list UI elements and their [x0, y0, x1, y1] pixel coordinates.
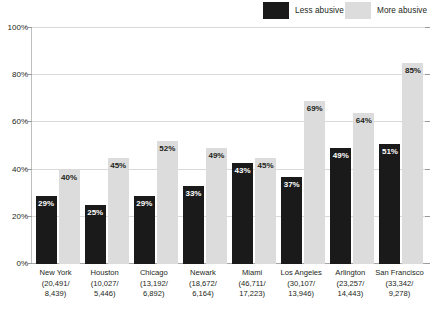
bar-less-abusive[interactable]: 49% [330, 148, 351, 264]
y-tick-right-100 [425, 27, 430, 28]
y-axis-label-60: 60% [0, 118, 28, 126]
bar-more-abusive[interactable]: 45% [108, 158, 129, 264]
bar-value-label: 51% [382, 148, 398, 156]
bar-group: 25%45% [85, 28, 129, 264]
bar-group: 29%52% [134, 28, 178, 264]
x-axis-city-name: San Francisco [368, 268, 430, 279]
bar-value-label: 45% [110, 162, 126, 170]
bar-value-label: 85% [405, 67, 421, 75]
bar-value-label: 40% [61, 174, 77, 182]
y-tick-right-60 [425, 121, 430, 122]
bar-more-abusive[interactable]: 69% [304, 101, 325, 264]
bar-value-label: 29% [38, 200, 54, 208]
bar-group: 33%49% [183, 28, 227, 264]
y-tick-left-40 [28, 169, 32, 170]
bar-more-abusive[interactable]: 85% [402, 63, 423, 264]
bar-less-abusive[interactable]: 29% [36, 196, 57, 264]
bar-group: 37%69% [281, 28, 325, 264]
y-tick-right-80 [425, 74, 430, 75]
grouped-bar-chart: 29%40%25%45%29%52%33%49%43%45%37%69%49%6… [0, 0, 437, 319]
x-axis-count-line2: 9,278) [368, 289, 430, 300]
plot-area: 29%40%25%45%29%52%33%49%43%45%37%69%49%6… [31, 28, 424, 264]
y-tick-right-40 [425, 169, 430, 170]
bar-group: 29%40% [36, 28, 80, 264]
bar-value-label: 25% [87, 209, 103, 217]
y-tick-left-0 [28, 263, 32, 264]
bar-less-abusive[interactable]: 37% [281, 177, 302, 264]
y-axis-label-20: 20% [0, 213, 28, 221]
bar-less-abusive[interactable]: 25% [85, 205, 106, 264]
y-tick-right-20 [425, 216, 430, 217]
bar-less-abusive[interactable]: 51% [379, 144, 400, 264]
bar-value-label: 33% [185, 190, 201, 198]
bar-group: 51%85% [379, 28, 423, 264]
x-axis-count-line1: (33,342/ [368, 279, 430, 290]
x-axis-label: San Francisco(33,342/9,278) [368, 268, 430, 300]
bar-value-label: 43% [235, 167, 251, 175]
bar-more-abusive[interactable]: 52% [157, 141, 178, 264]
bar-group: 43%45% [232, 28, 276, 264]
bar-value-label: 69% [307, 105, 323, 113]
bar-more-abusive[interactable]: 40% [59, 170, 80, 264]
bar-group: 49%64% [330, 28, 374, 264]
bar-more-abusive[interactable]: 45% [255, 158, 276, 264]
bar-value-label: 52% [159, 145, 175, 153]
y-tick-right-0 [425, 263, 430, 264]
y-axis-label-100: 100% [0, 24, 28, 32]
bar-more-abusive[interactable]: 49% [206, 148, 227, 264]
bar-value-label: 45% [258, 162, 274, 170]
bar-less-abusive[interactable]: 29% [134, 196, 155, 264]
y-axis-label-0: 0% [0, 260, 28, 268]
bar-less-abusive[interactable]: 33% [183, 186, 204, 264]
bar-value-label: 49% [333, 152, 349, 160]
y-tick-left-60 [28, 121, 32, 122]
y-axis-label-80: 80% [0, 71, 28, 79]
bar-value-label: 29% [136, 200, 152, 208]
y-tick-left-100 [28, 27, 32, 28]
x-axis-labels: New York(20,491/8,439)Houston(10,027/5,4… [31, 268, 424, 318]
bar-less-abusive[interactable]: 43% [232, 163, 253, 264]
bar-value-label: 37% [284, 181, 300, 189]
y-axis-label-40: 40% [0, 166, 28, 174]
bar-value-label: 49% [208, 152, 224, 160]
bar-more-abusive[interactable]: 64% [353, 113, 374, 264]
y-tick-left-20 [28, 216, 32, 217]
y-tick-left-80 [28, 74, 32, 75]
bar-value-label: 64% [356, 117, 372, 125]
